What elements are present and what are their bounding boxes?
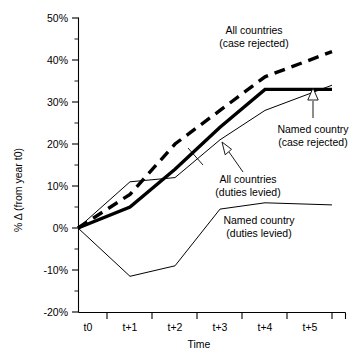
annotation-named-case-rejected: Named country (case rejected) xyxy=(277,88,349,148)
y-tick-label: 20% xyxy=(47,138,68,150)
x-axis-title: Time xyxy=(188,338,211,350)
annotation-line-2: (duties levied) xyxy=(215,186,280,198)
annotation-line-2: (case rejected) xyxy=(219,37,288,49)
y-tick-label: 50% xyxy=(47,12,68,24)
y-tick-label: 10% xyxy=(47,180,68,192)
annotation-line-1: All countries xyxy=(219,173,276,185)
x-tick-label: t+5 xyxy=(303,321,318,333)
y-tick-label: 40% xyxy=(47,54,68,66)
x-tick-label: t+4 xyxy=(258,321,273,333)
y-tick-label: -10% xyxy=(43,264,68,276)
series-named-case-rejected xyxy=(78,89,332,228)
annotation-line-1: Named country xyxy=(223,214,295,226)
annotation-line-1: Named country xyxy=(277,123,349,135)
annotation-all-case-rejected: All countries (case rejected) xyxy=(219,24,288,49)
series-all-duties-levied xyxy=(78,85,332,228)
y-axis-title: % Δ (from year t0) xyxy=(12,148,24,232)
annotation-all-duties-levied: All countries (duties levied) xyxy=(215,142,280,198)
annotation-line-2: (duties levied) xyxy=(226,227,291,239)
x-tick-label: t+3 xyxy=(213,321,228,333)
y-tick-label: -20% xyxy=(43,306,68,318)
annotation-line-2: (case rejected) xyxy=(278,136,347,148)
leader-line xyxy=(229,152,243,172)
y-tick-label: 0% xyxy=(53,222,68,234)
annotation-line-1: All countries xyxy=(225,24,282,36)
x-axis xyxy=(79,313,346,320)
y-tick-label: 30% xyxy=(47,96,68,108)
chart-canvas: 50% 40% 30% 20% 10% 0% -10% -20% t0 t+1 … xyxy=(0,0,357,355)
y-axis xyxy=(72,18,79,313)
x-tick-label: t+1 xyxy=(123,321,138,333)
x-tick-label: t0 xyxy=(84,321,93,333)
chart-figure: 50% 40% 30% 20% 10% 0% -10% -20% t0 t+1 … xyxy=(0,0,357,355)
x-tick-label: t+2 xyxy=(168,321,183,333)
